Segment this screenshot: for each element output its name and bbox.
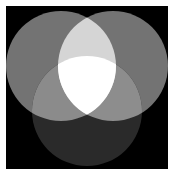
venn-diagram [6,6,168,169]
venn-svg-canvas [6,6,168,169]
figure-root [0,0,174,176]
plot-area [6,6,168,169]
